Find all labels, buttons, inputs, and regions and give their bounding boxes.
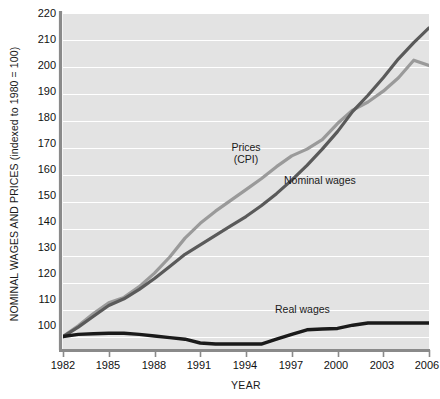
x-tick-label-1988: 1988	[131, 360, 177, 371]
x-tick-label-1982: 1982	[40, 360, 86, 371]
y-tick-label-150: 150	[18, 190, 56, 201]
x-tick-label-1994: 1994	[222, 360, 268, 371]
y-tick-label-110: 110	[18, 294, 56, 305]
y-tick-label-210: 210	[18, 34, 56, 45]
chart-figure: NOMINAL WAGES AND PRICES (indexed to 198…	[0, 0, 440, 399]
x-tick-marks	[64, 350, 430, 357]
annotation-prices-line1: Prices	[216, 141, 276, 153]
x-axis-title: YEAR	[63, 379, 429, 391]
y-tick-label-200: 200	[18, 60, 56, 71]
y-tick-label-140: 140	[18, 216, 56, 227]
y-tick-label-180: 180	[18, 112, 56, 123]
x-tick-label-2003: 2003	[359, 360, 405, 371]
y-tick-label-160: 160	[18, 164, 56, 175]
x-tick-label-1985: 1985	[85, 360, 131, 371]
y-tick-label-190: 190	[18, 86, 56, 97]
y-tick-label-220: 220	[18, 8, 56, 19]
x-tick-label-2006: 2006	[404, 360, 440, 371]
annotation-real-wages: Real wages	[275, 303, 330, 315]
annotation-prices-cpi: Prices (CPI)	[216, 141, 276, 166]
x-tick-label-2000: 2000	[313, 360, 359, 371]
annotation-nominal-wages: Nominal wages	[284, 174, 356, 186]
y-tick-label-130: 130	[18, 242, 56, 253]
x-tick-label-1997: 1997	[268, 360, 314, 371]
y-tick-label-120: 120	[18, 268, 56, 279]
annotation-prices-line2: (CPI)	[216, 153, 276, 165]
y-tick-label-100: 100	[18, 320, 56, 331]
x-tick-label-1991: 1991	[176, 360, 222, 371]
y-tick-label-170: 170	[18, 138, 56, 149]
plot-area	[63, 13, 429, 350]
